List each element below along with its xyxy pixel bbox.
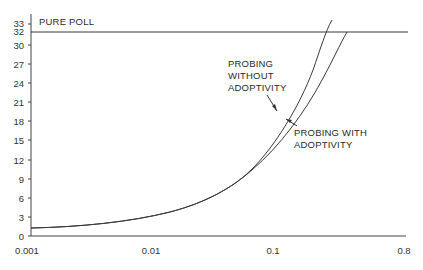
y-tick-27: 27 <box>13 59 24 70</box>
x-tick-0.8: 0.8 <box>397 245 410 256</box>
y-tick-33: 33 <box>13 18 24 29</box>
y-tick-15: 15 <box>13 135 24 146</box>
y-tick-12: 12 <box>13 155 24 166</box>
without-label-line2: WITHOUT <box>228 70 274 81</box>
y-tick-18: 18 <box>13 116 24 127</box>
y-tick-24: 24 <box>13 78 24 89</box>
pure-poll-label: PURE POLL <box>39 16 94 27</box>
y-tick-labels: 0 3 6 9 12 15 18 21 24 27 30 32 33 <box>13 18 24 242</box>
chart: 0 3 6 9 12 15 18 21 24 27 30 32 33 0.001… <box>0 0 423 270</box>
annotation-without-adoptivity: PROBING WITHOUT ADOPTIVITY <box>228 58 287 111</box>
y-tick-21: 21 <box>13 97 24 108</box>
without-label-line1: PROBING <box>228 58 273 69</box>
x-tick-labels: 0.001 0.01 0.1 0.8 <box>15 245 411 256</box>
y-tick-0: 0 <box>19 231 24 242</box>
x-tick-0.1: 0.1 <box>266 245 279 256</box>
x-tick-0.001: 0.001 <box>15 245 39 256</box>
annotation-with-adoptivity: PROBING WITH ADOPTIVITY <box>286 119 367 150</box>
with-label-line1: PROBING WITH <box>294 127 367 138</box>
y-tick-3: 3 <box>19 212 24 223</box>
y-tick-9: 9 <box>19 174 24 185</box>
y-tick-30: 30 <box>13 40 24 51</box>
without-label-line3: ADOPTIVITY <box>228 82 287 93</box>
with-label-line2: ADOPTIVITY <box>294 139 353 150</box>
x-tick-0.01: 0.01 <box>142 245 161 256</box>
y-tick-6: 6 <box>19 193 24 204</box>
curve-probing-without-adoptivity <box>31 20 332 228</box>
